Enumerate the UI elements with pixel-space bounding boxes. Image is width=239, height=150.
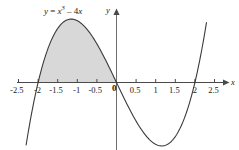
x-tick-label: -2	[34, 86, 41, 95]
x-tick-label: 1	[154, 86, 158, 95]
x-tick-label: 2.5	[208, 86, 219, 95]
x-tick-label: 2	[193, 86, 197, 95]
equation-minus-term: – 4	[65, 6, 79, 16]
x-tick-label: -1	[73, 86, 80, 95]
function-plot-svg	[0, 0, 239, 150]
equation-label: y = x3 – 4x	[44, 5, 82, 16]
x-tick-label: 0.5	[130, 86, 141, 95]
x-tick-label: -1.5	[49, 86, 62, 95]
shaded-area-region	[38, 19, 116, 82]
x-axis-arrow-icon	[223, 79, 230, 85]
y-axis-arrow-icon	[113, 9, 119, 16]
y-axis-label: y	[106, 6, 110, 15]
x-axis-label: x	[231, 78, 235, 87]
graph-figure: y = x3 – 4x y x 0 -2.5-2-1.5-1-0.50.511.…	[0, 0, 239, 150]
x-tick-label: -0.5	[89, 86, 102, 95]
x-tick-label: 1.5	[169, 86, 180, 95]
x-tick-label: -2.5	[10, 86, 23, 95]
origin-label: 0	[112, 84, 117, 93]
equation-x-var: x	[78, 6, 82, 16]
equation-equals: =	[48, 6, 58, 16]
